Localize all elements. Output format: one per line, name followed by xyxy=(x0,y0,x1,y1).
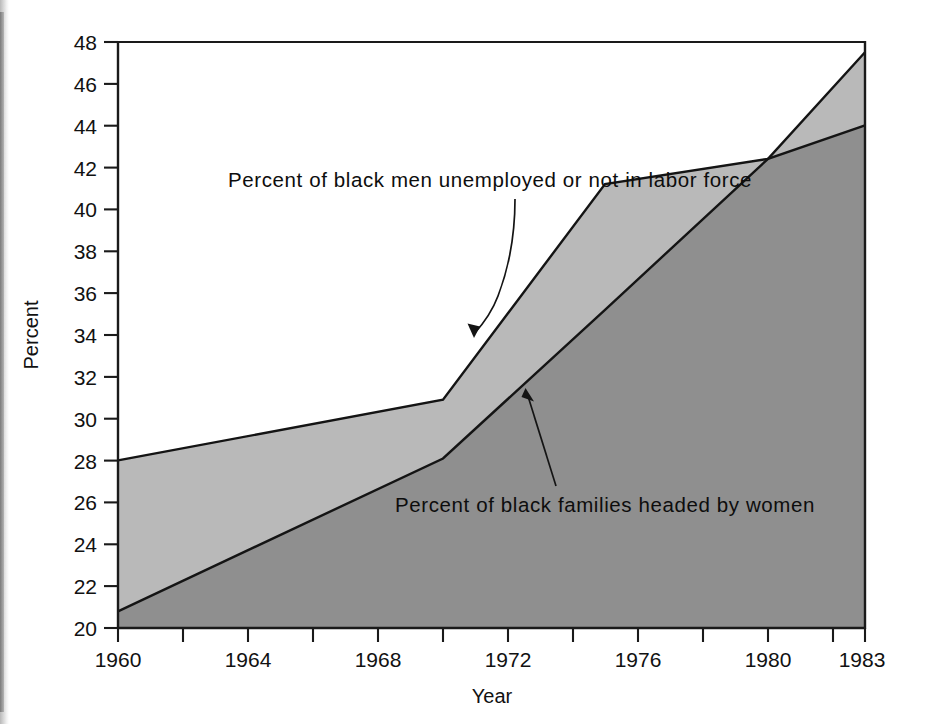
x-axis-tick-labels: 1960 1964 1968 1972 1976 1980 1983 xyxy=(95,648,886,671)
chart-figure: 20 22 24 26 28 30 32 34 36 38 40 42 44 4… xyxy=(0,0,925,724)
y-tick-label: 38 xyxy=(74,240,97,263)
lower-series-annotation-label: Percent of black families headed by wome… xyxy=(395,493,815,516)
x-axis-ticks xyxy=(118,628,865,642)
y-tick-label: 44 xyxy=(74,115,98,138)
upper-series-arrowhead xyxy=(468,324,481,339)
x-tick-label: 1980 xyxy=(745,648,792,671)
y-axis-ticks xyxy=(104,42,118,628)
y-tick-label: 34 xyxy=(74,324,98,347)
y-tick-label: 24 xyxy=(74,533,98,556)
y-tick-label: 20 xyxy=(74,617,97,640)
x-tick-label: 1964 xyxy=(225,648,272,671)
x-tick-label: 1983 xyxy=(839,648,886,671)
y-tick-label: 28 xyxy=(74,450,97,473)
y-tick-label: 36 xyxy=(74,282,97,305)
y-tick-label: 40 xyxy=(74,198,97,221)
x-tick-label: 1976 xyxy=(615,648,662,671)
y-tick-label: 32 xyxy=(74,366,97,389)
x-axis-title: Year xyxy=(472,685,513,707)
upper-series-annotation-label: Percent of black men unemployed or not i… xyxy=(228,168,752,191)
area-chart-plot: 20 22 24 26 28 30 32 34 36 38 40 42 44 4… xyxy=(0,0,925,724)
y-tick-label: 26 xyxy=(74,491,97,514)
y-axis-tick-labels: 20 22 24 26 28 30 32 34 36 38 40 42 44 4… xyxy=(74,31,98,640)
x-tick-label: 1972 xyxy=(485,648,532,671)
y-tick-label: 48 xyxy=(74,31,97,54)
y-tick-label: 30 xyxy=(74,408,97,431)
y-tick-label: 46 xyxy=(74,73,97,96)
x-tick-label: 1960 xyxy=(95,648,142,671)
y-tick-label: 22 xyxy=(74,575,97,598)
y-tick-label: 42 xyxy=(74,157,97,180)
x-tick-label: 1968 xyxy=(355,648,402,671)
y-axis-title: Percent xyxy=(20,300,42,369)
